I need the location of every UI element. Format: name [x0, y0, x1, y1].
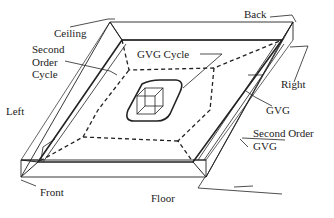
label-second-order-cycle-1: Second	[32, 43, 65, 55]
gvg-cycle-region	[127, 80, 182, 121]
label-floor: Floor	[151, 192, 175, 204]
cube-icon	[137, 88, 163, 114]
slab-diagram: Ceiling Back Second Order Cycle GVG Cycl…	[0, 0, 334, 218]
label-left: Left	[6, 105, 24, 117]
label-gvg-cycle: GVG Cycle	[137, 48, 189, 60]
label-second-order-cycle-3: Cycle	[32, 68, 58, 80]
label-front: Front	[40, 186, 64, 198]
label-gvg: GVG	[266, 104, 290, 116]
label-second-order-gvg-1: Second Order	[253, 127, 314, 139]
leader-lines	[21, 15, 308, 194]
label-second-order-cycle-2: Order	[32, 56, 58, 68]
label-ceiling: Ceiling	[54, 27, 87, 39]
label-back: Back	[244, 8, 267, 20]
label-right: Right	[281, 78, 305, 90]
label-second-order-gvg-2: GVG	[253, 140, 277, 152]
